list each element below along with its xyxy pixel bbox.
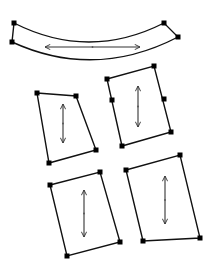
- corner-handle[interactable]: [118, 240, 123, 245]
- shape-quad-top-left[interactable]: [35, 91, 99, 166]
- corner-handle[interactable]: [124, 168, 129, 173]
- shape-outline[interactable]: [107, 66, 171, 146]
- corner-handle[interactable]: [35, 91, 40, 96]
- shape-quad-bottom-right[interactable]: [124, 153, 203, 244]
- corner-handle[interactable]: [162, 21, 167, 26]
- midpoint-handle[interactable]: [110, 98, 115, 103]
- shape-outline[interactable]: [12, 23, 178, 60]
- shape-quad-top-right[interactable]: [105, 64, 174, 149]
- corner-handle[interactable]: [94, 148, 99, 153]
- corner-handle[interactable]: [176, 35, 181, 40]
- corner-handle[interactable]: [198, 236, 203, 241]
- center-dot: [164, 199, 166, 201]
- shape-quad-bottom-left[interactable]: [48, 170, 123, 259]
- midpoint-handle[interactable]: [162, 97, 167, 102]
- corner-handle[interactable]: [105, 77, 110, 82]
- corner-handle[interactable]: [169, 130, 174, 135]
- corner-handle[interactable]: [65, 254, 70, 259]
- center-dot: [92, 46, 94, 48]
- corner-handle[interactable]: [48, 183, 53, 188]
- corner-handle[interactable]: [74, 94, 79, 99]
- center-dot: [83, 213, 85, 215]
- shape-outline[interactable]: [50, 172, 120, 256]
- shape-curved-strip[interactable]: [10, 21, 181, 60]
- shape-outline[interactable]: [126, 155, 200, 241]
- corner-handle[interactable]: [12, 21, 17, 26]
- center-dot: [137, 106, 139, 108]
- center-dot: [62, 123, 64, 125]
- corner-handle[interactable]: [10, 40, 15, 45]
- shapes-layer: [10, 21, 203, 259]
- corner-handle[interactable]: [98, 170, 103, 175]
- corner-handle[interactable]: [120, 144, 125, 149]
- corner-handle[interactable]: [47, 161, 52, 166]
- corner-handle[interactable]: [152, 64, 157, 69]
- shape-outline[interactable]: [37, 93, 96, 163]
- corner-handle[interactable]: [141, 239, 146, 244]
- diagram-canvas: [0, 0, 218, 276]
- corner-handle[interactable]: [178, 153, 183, 158]
